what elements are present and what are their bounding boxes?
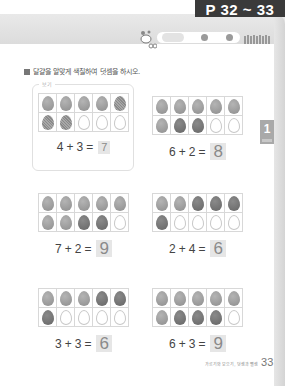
- answer-box[interactable]: 6: [210, 240, 225, 257]
- ten-frame-cell[interactable]: [111, 194, 129, 213]
- egg-icon: [228, 196, 240, 211]
- ten-frame-cell[interactable]: [111, 94, 129, 113]
- ten-frame-cell[interactable]: [207, 97, 225, 116]
- ten-frame-cell[interactable]: [57, 289, 75, 308]
- plus-sign: +: [179, 242, 186, 256]
- ten-frame-cell[interactable]: [39, 308, 57, 327]
- ten-frame-cell[interactable]: [57, 113, 75, 132]
- answer-box[interactable]: 6: [96, 335, 111, 352]
- egg-icon: [174, 215, 186, 230]
- ten-frame-cell[interactable]: [225, 97, 243, 116]
- ten-frame-cell[interactable]: [171, 289, 189, 308]
- ten-frame-cell[interactable]: [111, 213, 129, 232]
- answer-box[interactable]: 8: [210, 143, 225, 160]
- ten-frame-cell[interactable]: [39, 194, 57, 213]
- egg-icon: [210, 310, 222, 325]
- ten-frame-cell[interactable]: [75, 213, 93, 232]
- answer-box[interactable]: 7: [98, 141, 110, 154]
- egg-icon: [192, 310, 204, 325]
- plus-sign: +: [179, 145, 186, 159]
- ten-frame-cell[interactable]: [171, 116, 189, 135]
- ten-frame-cell[interactable]: [75, 308, 93, 327]
- ten-frame-cell[interactable]: [39, 289, 57, 308]
- ten-frame-cell[interactable]: [75, 94, 93, 113]
- answer-box[interactable]: 9: [96, 240, 111, 257]
- ten-frame-cell[interactable]: [171, 213, 189, 232]
- ten-frame-cell[interactable]: [171, 308, 189, 327]
- ten-frame: [152, 288, 243, 327]
- ten-frame-cell[interactable]: [111, 289, 129, 308]
- ten-frame-cell[interactable]: [75, 289, 93, 308]
- chapter-sub: [262, 139, 272, 142]
- equals-sign: =: [198, 242, 205, 256]
- ten-frame-cell[interactable]: [93, 94, 111, 113]
- ten-frame-cell[interactable]: [111, 113, 129, 132]
- ten-frame-cell[interactable]: [225, 308, 243, 327]
- ten-frame-cell[interactable]: [225, 194, 243, 213]
- egg-icon: [192, 118, 204, 133]
- ten-frame-cell[interactable]: [57, 213, 75, 232]
- instruction-label: 달걀을 알맞게 색칠하여 덧셈을 하시오.: [33, 68, 140, 76]
- ten-frame-cell[interactable]: [189, 97, 207, 116]
- page-number: 33: [261, 356, 273, 368]
- ten-frame-cell[interactable]: [225, 213, 243, 232]
- egg-icon: [192, 99, 204, 114]
- egg-icon: [96, 310, 108, 325]
- egg-icon: [156, 291, 168, 306]
- ten-frame-cell[interactable]: [75, 194, 93, 213]
- ten-frame-cell[interactable]: [153, 97, 171, 116]
- ten-frame-cell[interactable]: [57, 94, 75, 113]
- equation: 4+3=7: [38, 140, 129, 154]
- ten-frame-cell[interactable]: [93, 289, 111, 308]
- ten-frame-cell[interactable]: [225, 289, 243, 308]
- egg-icon: [42, 96, 54, 111]
- ten-frame-cell[interactable]: [111, 308, 129, 327]
- answer-box[interactable]: 9: [210, 335, 225, 352]
- addend-b: 2: [189, 145, 196, 159]
- ten-frame-cell[interactable]: [153, 289, 171, 308]
- ten-frame-cell[interactable]: [93, 213, 111, 232]
- ten-frame-cell[interactable]: [189, 194, 207, 213]
- problem-2: 7+2=9: [38, 193, 138, 257]
- egg-icon: [96, 96, 108, 111]
- ten-frame-cell[interactable]: [207, 194, 225, 213]
- ten-frame-cell[interactable]: [153, 194, 171, 213]
- egg-icon: [78, 96, 90, 111]
- ten-frame-cell[interactable]: [93, 113, 111, 132]
- equation: 6+2=8: [152, 143, 243, 160]
- ten-frame-cell[interactable]: [39, 113, 57, 132]
- ten-frame: [38, 93, 129, 132]
- example-problem: 4+3=7: [38, 93, 138, 154]
- ten-frame-cell[interactable]: [57, 308, 75, 327]
- plus-sign: +: [179, 337, 186, 351]
- ten-frame-cell[interactable]: [75, 113, 93, 132]
- ten-frame-cell[interactable]: [171, 97, 189, 116]
- ten-frame-cell[interactable]: [207, 308, 225, 327]
- addend-a: 7: [55, 242, 62, 256]
- ten-frame-cell[interactable]: [189, 308, 207, 327]
- ten-frame-cell[interactable]: [189, 289, 207, 308]
- ten-frame-cell[interactable]: [225, 116, 243, 135]
- egg-icon: [210, 99, 222, 114]
- ten-frame-cell[interactable]: [153, 116, 171, 135]
- question-marker-icon: [24, 69, 30, 75]
- ten-frame-cell[interactable]: [207, 213, 225, 232]
- egg-icon: [96, 196, 108, 211]
- ten-frame-cell[interactable]: [93, 308, 111, 327]
- equals-sign: =: [84, 242, 91, 256]
- ten-frame-cell[interactable]: [207, 289, 225, 308]
- ten-frame-cell[interactable]: [39, 213, 57, 232]
- ten-frame-cell[interactable]: [189, 213, 207, 232]
- ten-frame-cell[interactable]: [207, 116, 225, 135]
- ten-frame-cell[interactable]: [93, 194, 111, 213]
- ten-frame-cell[interactable]: [171, 194, 189, 213]
- ten-frame-cell[interactable]: [153, 213, 171, 232]
- decoration-icon: [243, 34, 273, 46]
- ten-frame-cell[interactable]: [57, 194, 75, 213]
- ten-frame-cell[interactable]: [39, 94, 57, 113]
- ten-frame-cell[interactable]: [153, 308, 171, 327]
- addend-b: 3: [76, 140, 83, 154]
- egg-icon: [156, 215, 168, 230]
- ten-frame: [38, 288, 129, 327]
- ten-frame-cell[interactable]: [189, 116, 207, 135]
